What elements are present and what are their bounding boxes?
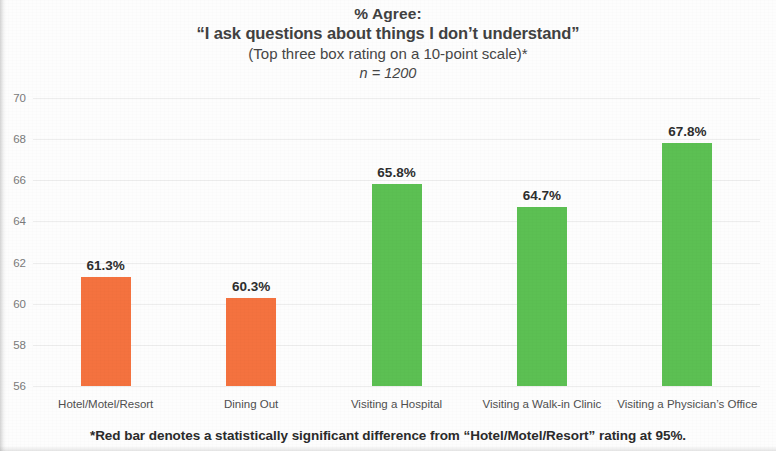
chart-subtitle: (Top three box rating on a 10-point scal…	[0, 44, 776, 64]
gridline	[33, 98, 760, 99]
bar-value-label: 64.7%	[523, 188, 561, 203]
bar[interactable]: 67.8%Visiting a Physician’s Office	[662, 143, 712, 386]
gridline	[33, 386, 760, 387]
x-axis-category-label: Visiting a Physician’s Office	[617, 398, 757, 410]
gridline	[33, 139, 760, 140]
chart-footnote: *Red bar denotes a statistically signifi…	[0, 428, 776, 443]
y-axis-tick-label: 68	[13, 133, 26, 145]
bar[interactable]: 60.3%Dining Out	[226, 298, 276, 386]
y-axis-tick-label: 58	[13, 339, 26, 351]
bar[interactable]: 65.8%Visiting a Hospital	[372, 184, 422, 386]
x-axis-category-label: Dining Out	[224, 398, 278, 410]
bar-value-label: 67.8%	[668, 124, 706, 139]
bar-rect[interactable]	[517, 207, 567, 386]
y-axis-tick-label: 64	[13, 215, 26, 227]
bar-rect[interactable]	[662, 143, 712, 386]
x-axis-category-label: Visiting a Hospital	[351, 398, 442, 410]
y-axis-tick-label: 56	[13, 380, 26, 392]
gridline	[33, 180, 760, 181]
y-axis-tick-label: 62	[13, 257, 26, 269]
chart-title-block: % Agree: “I ask questions about things I…	[0, 4, 776, 83]
bar-rect[interactable]	[81, 277, 131, 386]
y-axis-tick-label: 60	[13, 298, 26, 310]
chart-title-line-2: “I ask questions about things I don’t un…	[0, 23, 776, 44]
y-axis-tick-label: 70	[13, 92, 26, 104]
x-axis-category-label: Visiting a Walk-in Clinic	[482, 398, 601, 410]
bar[interactable]: 61.3%Hotel/Motel/Resort	[81, 277, 131, 386]
x-axis-category-label: Hotel/Motel/Resort	[58, 398, 153, 410]
bar-rect[interactable]	[226, 298, 276, 386]
chart-title-line-1: % Agree:	[0, 4, 776, 23]
bar-value-label: 60.3%	[232, 279, 270, 294]
bar-value-label: 65.8%	[377, 165, 415, 180]
chart-plot-area: 5658606264666870 61.3%Hotel/Motel/Resort…	[33, 98, 760, 386]
bar-rect[interactable]	[372, 184, 422, 386]
y-axis-tick-label: 66	[13, 174, 26, 186]
slide-canvas: % Agree: “I ask questions about things I…	[0, 0, 776, 451]
bar-value-label: 61.3%	[87, 258, 125, 273]
chart-sample-size: n = 1200	[0, 64, 776, 83]
bar[interactable]: 64.7%Visiting a Walk-in Clinic	[517, 207, 567, 386]
scan-edge-shadow-bottom	[0, 446, 776, 451]
